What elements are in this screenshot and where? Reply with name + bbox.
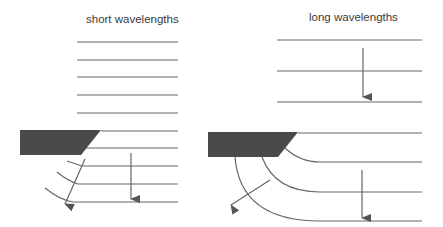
diffraction-arrow bbox=[65, 159, 85, 204]
barrier-block bbox=[20, 130, 101, 155]
diffraction-arrow bbox=[231, 180, 270, 205]
wave-diffraction-diagram bbox=[0, 0, 443, 227]
long-wavelength-panel bbox=[231, 40, 422, 221]
barrier-block bbox=[208, 132, 298, 157]
short-wavelength-panel bbox=[45, 42, 178, 204]
diffracted-wavefront bbox=[285, 148, 422, 162]
diffracted-wavefront bbox=[235, 157, 422, 221]
diffracted-wavefront bbox=[45, 188, 178, 202]
